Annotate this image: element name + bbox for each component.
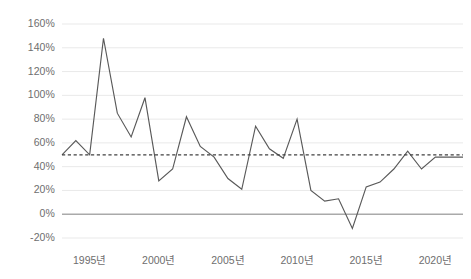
y-tick-label: 160%: [28, 17, 55, 29]
y-tick-label: 60%: [34, 136, 55, 148]
x-tick-label: 2005년: [198, 252, 258, 267]
y-tick-label: -20%: [30, 231, 55, 243]
y-tick-label: 140%: [28, 41, 55, 53]
y-tick-label: 100%: [28, 88, 55, 100]
x-tick-label: 2010년: [267, 252, 327, 267]
y-tick-label: 120%: [28, 65, 55, 77]
x-tick-label: 1995년: [60, 252, 120, 267]
y-tick-label: 0%: [40, 207, 55, 219]
data-series-line: [62, 38, 463, 228]
chart-container: 160%140%120%100%80%60%40%20%0%-20% 1995년…: [0, 0, 471, 279]
line-chart-plot: [0, 0, 471, 279]
y-tick-label: 40%: [34, 160, 55, 172]
y-tick-label: 20%: [34, 183, 55, 195]
x-tick-label: 2020년: [405, 252, 465, 267]
y-tick-label: 80%: [34, 112, 55, 124]
x-tick-label: 2000년: [129, 252, 189, 267]
gridlines-group: [62, 24, 463, 238]
x-tick-label: 2015년: [336, 252, 396, 267]
